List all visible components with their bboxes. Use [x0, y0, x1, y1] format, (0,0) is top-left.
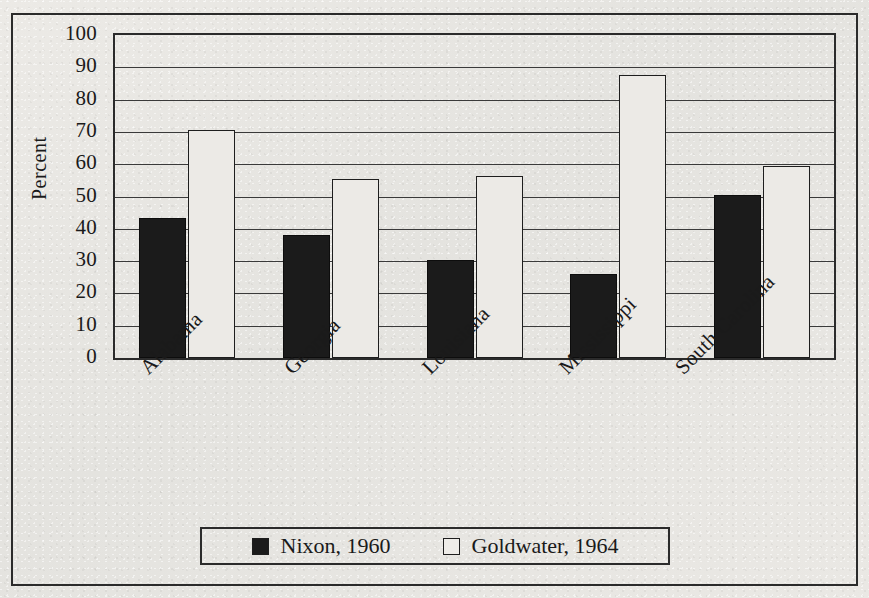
- y-axis-tick-labels: 0102030405060708090100: [0, 33, 105, 360]
- y-tick-0: 0: [86, 344, 97, 369]
- y-tick-50: 50: [76, 182, 97, 207]
- hollow-square-icon: [443, 538, 460, 555]
- y-tick-40: 40: [76, 214, 97, 239]
- y-tick-70: 70: [76, 117, 97, 142]
- legend-label-goldwater: Goldwater, 1964: [472, 533, 619, 559]
- gridline-80: [115, 100, 834, 101]
- legend: Nixon, 1960 Goldwater, 1964: [200, 527, 670, 565]
- y-tick-90: 90: [76, 53, 97, 78]
- y-tick-20: 20: [76, 279, 97, 304]
- y-tick-100: 100: [65, 21, 97, 46]
- legend-label-nixon: Nixon, 1960: [281, 533, 391, 559]
- y-tick-10: 10: [76, 311, 97, 336]
- x-axis-tick-labels: AlabamaGeorgiaLouisianaMississippiSouth …: [113, 362, 836, 502]
- y-tick-80: 80: [76, 85, 97, 110]
- gridline-90: [115, 67, 834, 68]
- bar-south-carolina-goldwater: [763, 166, 810, 358]
- y-tick-60: 60: [76, 150, 97, 175]
- y-tick-30: 30: [76, 247, 97, 272]
- legend-item-nixon: Nixon, 1960: [252, 533, 391, 559]
- legend-item-goldwater: Goldwater, 1964: [443, 533, 619, 559]
- filled-square-icon: [252, 538, 269, 555]
